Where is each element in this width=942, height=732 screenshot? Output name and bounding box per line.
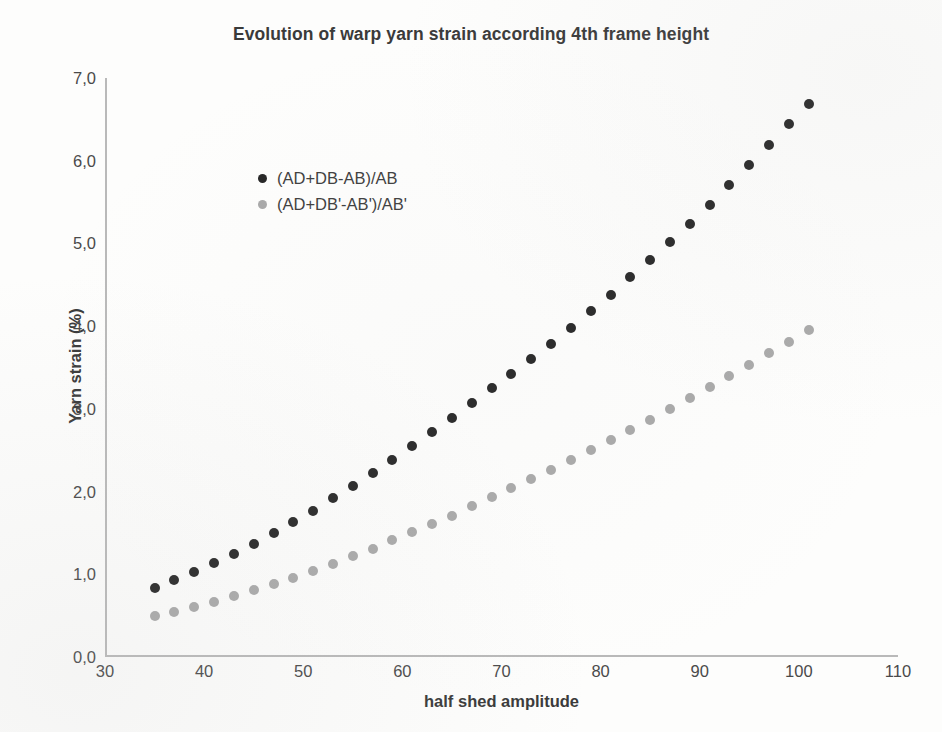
data-point (487, 383, 497, 393)
data-point (328, 559, 338, 569)
data-point (249, 539, 259, 549)
data-point (546, 339, 556, 349)
data-point (526, 474, 536, 484)
x-tick-label: 40 (195, 662, 213, 681)
data-point (447, 413, 457, 423)
data-point (744, 360, 754, 370)
legend-marker-dot-icon (258, 174, 267, 183)
data-point (526, 354, 536, 364)
data-point (764, 140, 774, 150)
data-point (387, 455, 397, 465)
data-point (645, 415, 655, 425)
y-tick-label: 5,0 (73, 234, 96, 253)
legend-item[interactable]: (AD+DB'-AB')/AB' (258, 191, 407, 217)
y-axis-line (105, 78, 107, 657)
y-tick-label: 4,0 (73, 317, 96, 336)
data-point (407, 441, 417, 451)
data-point (645, 255, 655, 265)
data-point (467, 501, 477, 511)
data-point (566, 323, 576, 333)
data-point (606, 290, 616, 300)
x-tick-label: 60 (393, 662, 411, 681)
y-tick-label: 0,0 (73, 648, 96, 667)
x-tick-label: 90 (691, 662, 709, 681)
data-point (665, 404, 675, 414)
x-tick-label: 50 (294, 662, 312, 681)
x-tick-label: 70 (492, 662, 510, 681)
data-point (447, 511, 457, 521)
data-point (169, 575, 179, 585)
legend-label: (AD+DB-AB)/AB (277, 169, 398, 188)
y-tick-label: 2,0 (73, 482, 96, 501)
data-point (665, 237, 675, 247)
data-point (209, 597, 219, 607)
data-point (269, 579, 279, 589)
x-axis-line (105, 655, 898, 657)
data-point (625, 425, 635, 435)
chart-page: Evolution of warp yarn strain according … (0, 0, 942, 732)
data-point (804, 325, 814, 335)
y-tick-label: 6,0 (73, 151, 96, 170)
data-point (566, 455, 576, 465)
data-point (586, 306, 596, 316)
legend-item[interactable]: (AD+DB-AB)/AB (258, 165, 407, 191)
data-point (546, 465, 556, 475)
data-point (724, 180, 734, 190)
data-point (288, 517, 298, 527)
data-point (427, 427, 437, 437)
data-point (784, 119, 794, 129)
data-point (724, 371, 734, 381)
y-tick-label: 3,0 (73, 399, 96, 418)
x-axis-title: half shed amplitude (105, 692, 898, 711)
data-point (150, 611, 160, 621)
data-point (606, 435, 616, 445)
data-point (209, 558, 219, 568)
data-point (387, 535, 397, 545)
data-point (764, 348, 774, 358)
data-point (427, 519, 437, 529)
data-point (348, 551, 358, 561)
chart-legend: (AD+DB-AB)/AB(AD+DB'-AB')/AB' (258, 165, 407, 217)
data-point (249, 585, 259, 595)
data-point (705, 382, 715, 392)
data-point (229, 549, 239, 559)
data-point (348, 481, 358, 491)
legend-label: (AD+DB'-AB')/AB' (277, 195, 407, 214)
data-point (150, 583, 160, 593)
data-point (288, 573, 298, 583)
x-tick-label: 80 (591, 662, 609, 681)
data-point (705, 200, 715, 210)
data-point (625, 272, 635, 282)
data-point (269, 528, 279, 538)
data-point (586, 445, 596, 455)
data-point (685, 393, 695, 403)
data-point (487, 492, 497, 502)
data-point (368, 468, 378, 478)
data-point (368, 544, 378, 554)
x-tick-label: 30 (96, 662, 114, 681)
data-point (506, 369, 516, 379)
data-point (685, 219, 695, 229)
data-point (784, 337, 794, 347)
x-tick-label: 110 (885, 662, 911, 681)
data-point (407, 527, 417, 537)
data-point (467, 398, 477, 408)
data-point (169, 607, 179, 617)
data-point (229, 591, 239, 601)
data-point (744, 160, 754, 170)
y-tick-label: 7,0 (73, 69, 96, 88)
legend-marker-dot-icon (258, 200, 267, 209)
plot-area: 0,01,02,03,04,05,06,07,0 304050607080901… (105, 78, 898, 657)
data-point (189, 602, 199, 612)
data-point (189, 567, 199, 577)
chart-title: Evolution of warp yarn strain according … (0, 24, 942, 45)
y-tick-label: 1,0 (73, 565, 96, 584)
data-point (804, 99, 814, 109)
data-point (506, 483, 516, 493)
data-point (308, 506, 318, 516)
data-point (308, 566, 318, 576)
x-tick-label: 100 (785, 662, 813, 681)
data-point (328, 493, 338, 503)
